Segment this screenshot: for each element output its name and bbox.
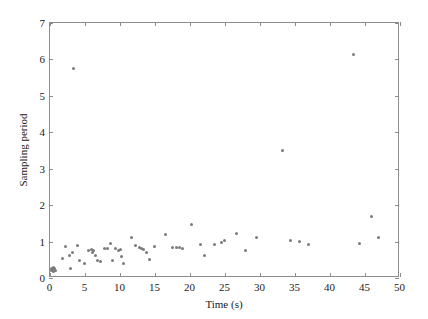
- y-axis-tick: [49, 278, 53, 279]
- x-axis-tick-label: 50: [394, 282, 405, 293]
- data-point: [119, 248, 122, 251]
- data-point: [94, 254, 97, 257]
- x-axis-tick-label: 0: [47, 282, 53, 293]
- y-axis-tick: [395, 23, 399, 24]
- x-axis-tick-label: 20: [184, 282, 195, 293]
- x-axis-tick: [400, 22, 401, 26]
- x-axis-tick-label: 5: [82, 282, 88, 293]
- x-axis-tick-label: 30: [254, 282, 265, 293]
- x-axis-tick-label: 25: [219, 282, 230, 293]
- y-axis-tick: [49, 169, 53, 170]
- y-axis-label: Sampling period: [17, 113, 29, 186]
- data-point: [298, 240, 301, 243]
- x-axis-tick: [190, 273, 191, 277]
- y-axis-tick-label: 4: [33, 126, 45, 137]
- data-point: [54, 269, 57, 272]
- y-axis-tick: [395, 132, 399, 133]
- x-axis-tick: [155, 273, 156, 277]
- x-axis-tick: [365, 22, 366, 26]
- x-axis-tick: [50, 273, 51, 277]
- y-axis-tick: [49, 23, 53, 24]
- x-axis-tick: [225, 22, 226, 26]
- x-axis-tick: [155, 22, 156, 26]
- y-axis-tick: [395, 59, 399, 60]
- data-point: [130, 236, 133, 239]
- x-axis-tick-label: 35: [289, 282, 300, 293]
- y-axis-tick: [395, 278, 399, 279]
- y-axis-tick: [49, 242, 53, 243]
- x-axis-tick-label: 10: [114, 282, 125, 293]
- y-axis-tick: [395, 205, 399, 206]
- x-axis-tick: [365, 273, 366, 277]
- x-axis-tick: [190, 22, 191, 26]
- y-axis-tick-label: 2: [33, 199, 45, 210]
- data-point: [203, 254, 206, 257]
- x-axis-tick-label: 45: [359, 282, 370, 293]
- y-axis-tick-label: 6: [33, 53, 45, 64]
- data-point: [358, 242, 361, 245]
- y-axis-tick-label: 3: [33, 163, 45, 174]
- data-point: [122, 262, 125, 265]
- x-axis-tick: [295, 273, 296, 277]
- y-axis-tick: [49, 96, 53, 97]
- x-axis-tick-label: 40: [324, 282, 335, 293]
- y-axis-tick-label: 5: [33, 90, 45, 101]
- y-axis-tick-label: 0: [33, 272, 45, 283]
- y-axis-tick: [49, 59, 53, 60]
- x-axis-tick: [295, 22, 296, 26]
- data-point: [71, 251, 74, 254]
- x-axis-tick: [400, 273, 401, 277]
- y-axis-tick: [395, 169, 399, 170]
- y-axis-tick-label: 1: [33, 236, 45, 247]
- x-axis-tick: [260, 22, 261, 26]
- data-point: [78, 259, 81, 262]
- scatter-plot-figure: Time (s) Sampling period 051015202530354…: [0, 0, 428, 319]
- data-point: [199, 243, 202, 246]
- x-axis-tick: [85, 273, 86, 277]
- data-point: [181, 247, 184, 250]
- data-point: [244, 249, 247, 252]
- x-axis-tick: [120, 22, 121, 26]
- x-axis-tick-label: 15: [149, 282, 160, 293]
- y-axis-tick: [395, 96, 399, 97]
- x-axis-tick: [120, 273, 121, 277]
- data-point: [69, 267, 72, 270]
- x-axis-tick: [330, 22, 331, 26]
- x-axis-tick: [85, 22, 86, 26]
- data-point: [145, 251, 148, 254]
- y-axis-tick: [395, 242, 399, 243]
- data-point: [377, 236, 380, 239]
- x-axis-tick: [330, 273, 331, 277]
- data-point: [68, 254, 71, 257]
- data-point: [153, 245, 156, 248]
- data-point: [235, 232, 238, 235]
- x-axis-tick: [260, 273, 261, 277]
- x-axis-label: Time (s): [205, 298, 242, 310]
- data-point: [76, 244, 79, 247]
- y-axis-tick: [49, 132, 53, 133]
- y-axis-tick: [49, 205, 53, 206]
- y-axis-tick-label: 7: [33, 17, 45, 28]
- x-axis-tick: [225, 273, 226, 277]
- data-point: [61, 257, 64, 260]
